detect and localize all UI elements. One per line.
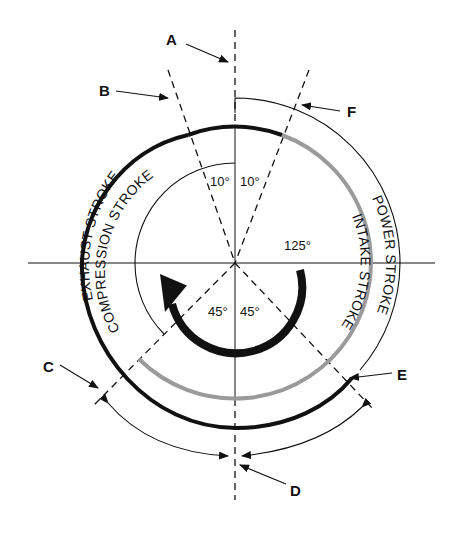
line-F-10deg-atdc [235,70,309,263]
callout-arrow-A [186,44,228,62]
valve-timing-diagram: A B F C E D 10° 10° 125° 45° 45° EXHAUST… [0,0,460,533]
label-intake-stroke: INTAKE STROKE [338,211,373,333]
callout-arrow-B [116,91,168,98]
callout-C: C [43,358,54,375]
label-power-stroke: POWER STROKE [369,193,399,317]
callout-F: F [347,103,356,120]
power-arc [235,98,400,370]
callout-A: A [166,31,177,48]
callout-D: D [290,482,301,499]
angle-label-bottom-right: 45° [240,304,260,319]
angle-label-top-right: 10° [240,174,260,189]
callout-arrow-C [60,365,98,388]
angle-label-top-left: 10° [210,174,230,189]
line-B-10deg-btdc [168,70,235,263]
angle-label-bottom-left: 45° [208,304,228,319]
callout-arrow-F [302,105,340,111]
callout-B: B [99,82,110,99]
callout-arrow-E [350,373,392,378]
callout-E: E [397,366,407,383]
angle-label-125: 125° [284,238,311,253]
callout-arrow-D [240,465,286,484]
